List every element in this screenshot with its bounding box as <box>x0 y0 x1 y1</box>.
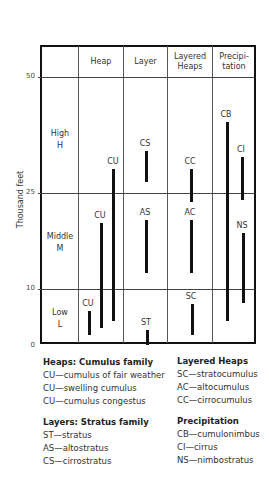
column-header-label: Heaps <box>177 62 202 72</box>
zone-abbr: M <box>42 243 78 255</box>
legend-item: CC—cirrocumulus <box>177 394 260 407</box>
legend-item: CU—cumulus congestus <box>43 395 165 408</box>
gridline-10 <box>38 289 255 290</box>
column-header-label: tation <box>222 62 245 72</box>
zone-abbr: H <box>42 140 78 152</box>
column-divider <box>212 46 213 343</box>
bar-label-cu-fair: CU <box>78 299 98 308</box>
legend-item: CU—cumulus of fair weather <box>43 369 165 382</box>
bar-label-cu-congestus: CU <box>103 157 123 166</box>
bar-label-ac: AC <box>180 208 200 217</box>
legend-item: CU—swelling cumulus <box>43 382 165 395</box>
zone-abbr: L <box>42 319 78 331</box>
y-tick-0: 0 <box>19 341 35 349</box>
bar-cumulonimbus <box>226 122 229 321</box>
legend-item: CI—cirrus <box>177 441 260 454</box>
zone-label: Low <box>42 307 78 319</box>
bar-label-ns: NS <box>232 221 252 230</box>
y-tick-10: 10 <box>19 284 35 292</box>
column-header-layered-heaps: Layered Heaps <box>168 47 212 77</box>
bar-cu-congestus <box>112 169 115 321</box>
gridline-25 <box>38 193 255 194</box>
bar-cu-fair-weather <box>88 311 91 335</box>
legend-heading: Precipitation <box>177 415 260 428</box>
column-header-label: Precipi- <box>219 52 249 62</box>
bar-cirrostratus <box>145 151 148 182</box>
zone-middle: Middle M <box>42 231 78 255</box>
bar-label-cu-swelling: CU <box>90 211 110 220</box>
bar-cirrocumulus <box>190 169 193 202</box>
bar-stratocumulus <box>191 304 194 335</box>
zone-label: Middle <box>42 231 78 243</box>
column-header-precipitation: Precipi- tation <box>213 47 255 77</box>
bar-label-cb: CB <box>216 110 236 119</box>
column-header-label: Layered <box>174 52 206 62</box>
legend-item: AC—altocumulus <box>177 381 260 394</box>
bar-label-cs: CS <box>135 139 155 148</box>
column-header-heap: Heap <box>79 47 123 77</box>
legend-item: CS—cirrostratus <box>43 455 165 468</box>
y-tick-50: 50 <box>19 72 35 80</box>
legend-item: SC—stratocumulus <box>177 368 260 381</box>
legend-heading: Heaps: Cumulus family <box>43 356 165 369</box>
bar-cirrus <box>241 157 244 200</box>
bar-label-cc: CC <box>180 157 200 166</box>
legend-item: AS—altostratus <box>43 442 165 455</box>
bar-label-ci: CI <box>231 145 251 154</box>
bar-cu-swelling <box>100 223 103 328</box>
y-axis-label: Thousand feet <box>16 170 25 230</box>
legend-layered-heaps: Layered Heaps SC—stratocumulus AC—altocu… <box>177 355 260 467</box>
column-header-label: Layer <box>134 57 156 67</box>
gridline-50 <box>38 77 255 78</box>
legend-item: CB—cumulonimbus <box>177 428 260 441</box>
zone-low: Low L <box>42 307 78 331</box>
chart-frame <box>40 45 256 344</box>
bar-altocumulus <box>190 220 193 273</box>
bar-label-sc: SC <box>181 292 201 301</box>
legend-heaps: Heaps: Cumulus family CU—cumulus of fair… <box>43 356 165 468</box>
legend-heading: Layered Heaps <box>177 355 260 368</box>
legend-item: NS—nimbostratus <box>177 454 260 467</box>
bar-nimbostratus <box>242 233 245 303</box>
zone-high: High H <box>42 128 78 152</box>
legend-item: ST—stratus <box>43 429 165 442</box>
zone-label: High <box>42 128 78 140</box>
column-header-label: Heap <box>91 57 112 67</box>
bar-label-st: ST <box>136 318 156 327</box>
column-header-layer: Layer <box>124 47 167 77</box>
column-divider <box>167 46 168 343</box>
legend-heading: Layers: Stratus family <box>43 416 165 429</box>
column-divider <box>123 46 124 343</box>
bar-altostratus <box>145 220 148 273</box>
bar-stratus <box>146 330 149 345</box>
bar-label-as: AS <box>135 208 155 217</box>
